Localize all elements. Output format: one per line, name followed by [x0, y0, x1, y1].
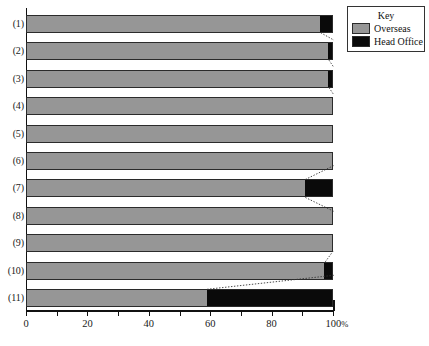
- percent-sign: %: [341, 319, 348, 329]
- stacked-bar-chart: (1)(2)(3)(4)(5)(6)(7)(8)(9)(10)(11) 0204…: [0, 0, 429, 346]
- legend-title: Key: [352, 10, 420, 21]
- x-axis-tick: [241, 310, 242, 316]
- x-axis-tick: [333, 310, 334, 316]
- x-axis-tick-label: 40: [144, 319, 155, 330]
- legend-label-overseas: Overseas: [374, 23, 411, 34]
- legend-item-head-office[interactable]: Head Office: [352, 36, 420, 47]
- leader-line: [321, 33, 334, 40]
- legend: Key Overseas Head Office: [347, 6, 425, 52]
- legend-swatch-head-office-icon: [352, 36, 370, 47]
- leader-line: [325, 250, 334, 262]
- x-axis-tick-label: 20: [82, 319, 93, 330]
- x-axis-tick: [302, 310, 303, 316]
- leader-line: [329, 88, 334, 95]
- legend-swatch-overseas-icon: [352, 23, 370, 34]
- legend-item-overseas[interactable]: Overseas: [352, 23, 420, 34]
- legend-label-head-office: Head Office: [374, 36, 423, 47]
- x-axis-tick: [210, 310, 211, 316]
- leader-line: [329, 60, 334, 67]
- x-axis-tick: [180, 310, 181, 316]
- x-axis-tick: [272, 310, 273, 316]
- x-axis-tick: [118, 310, 119, 316]
- x-axis-tick-label: 80: [266, 319, 277, 330]
- leader-line: [305, 165, 334, 179]
- x-axis-tick: [26, 310, 27, 316]
- x-axis-tick-label: 100%: [326, 319, 349, 330]
- x-axis-tick: [149, 310, 150, 316]
- x-axis-tick: [87, 310, 88, 316]
- leader-line: [305, 197, 334, 211]
- x-axis-tick: [57, 310, 58, 316]
- x-axis-tick-label: 60: [205, 319, 216, 330]
- leader-line: [207, 275, 334, 289]
- x-axis-tick-label: 0: [23, 319, 28, 330]
